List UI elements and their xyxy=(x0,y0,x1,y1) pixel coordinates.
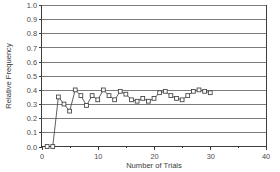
data-point-marker xyxy=(113,98,117,102)
y-tick-label-0.8: 0.8 xyxy=(27,29,37,38)
y-tick-label-0.0: 0.0 xyxy=(27,143,37,152)
data-point-marker xyxy=(141,96,145,100)
data-point-marker xyxy=(158,91,162,95)
y-tick-label-0.2: 0.2 xyxy=(27,114,37,123)
x-tick-label-20: 20 xyxy=(150,152,158,161)
data-point-marker xyxy=(96,98,100,102)
data-point-marker xyxy=(124,92,128,96)
data-point-marker xyxy=(208,91,212,95)
data-point-marker xyxy=(146,99,150,103)
data-point-marker xyxy=(90,94,94,98)
data-point-marker xyxy=(51,145,55,149)
relative-frequency-line-chart: 0.00.10.20.30.40.50.60.70.80.91.0 010203… xyxy=(0,0,280,172)
data-point-marker xyxy=(79,94,83,98)
data-point-marker xyxy=(169,94,173,98)
data-point-marker xyxy=(191,89,195,93)
data-point-marker xyxy=(152,96,156,100)
data-point-marker xyxy=(197,88,201,92)
y-tick-label-1.0: 1.0 xyxy=(27,1,37,10)
data-point-marker xyxy=(180,98,184,102)
y-tick-label-0.9: 0.9 xyxy=(27,15,37,24)
y-tick-label-0.6: 0.6 xyxy=(27,58,37,67)
y-tick-label-0.3: 0.3 xyxy=(27,100,37,109)
y-axis-tick-labels: 0.00.10.20.30.40.50.60.70.80.91.0 xyxy=(27,1,37,152)
data-point-marker xyxy=(186,94,190,98)
data-point-marker xyxy=(203,89,207,93)
data-point-marker xyxy=(56,95,60,99)
y-tick-label-0.5: 0.5 xyxy=(27,72,37,81)
data-point-marker xyxy=(68,109,72,113)
data-point-marker xyxy=(101,88,105,92)
data-point-marker xyxy=(62,102,66,106)
data-point-marker xyxy=(73,88,77,92)
data-point-marker xyxy=(85,104,89,108)
y-tick-label-0.4: 0.4 xyxy=(27,86,37,95)
x-tick-label-40: 40 xyxy=(262,152,270,161)
chart-figure: 0.00.10.20.30.40.50.60.70.80.91.0 010203… xyxy=(0,0,280,172)
data-point-marker xyxy=(135,99,139,103)
data-point-marker xyxy=(45,145,49,149)
data-point-marker xyxy=(118,89,122,93)
x-tick-label-0: 0 xyxy=(40,152,44,161)
y-tick-label-0.1: 0.1 xyxy=(27,128,37,137)
data-point-marker xyxy=(107,94,111,98)
x-tick-label-30: 30 xyxy=(207,152,215,161)
data-point-marker xyxy=(175,96,179,100)
data-point-marker xyxy=(130,98,134,102)
x-axis-title: Number of Trials xyxy=(126,161,182,170)
data-point-marker xyxy=(163,89,167,93)
y-tick-label-0.7: 0.7 xyxy=(27,44,37,53)
x-tick-label-10: 10 xyxy=(94,152,102,161)
y-axis-title: Relative Frequency xyxy=(4,43,13,109)
